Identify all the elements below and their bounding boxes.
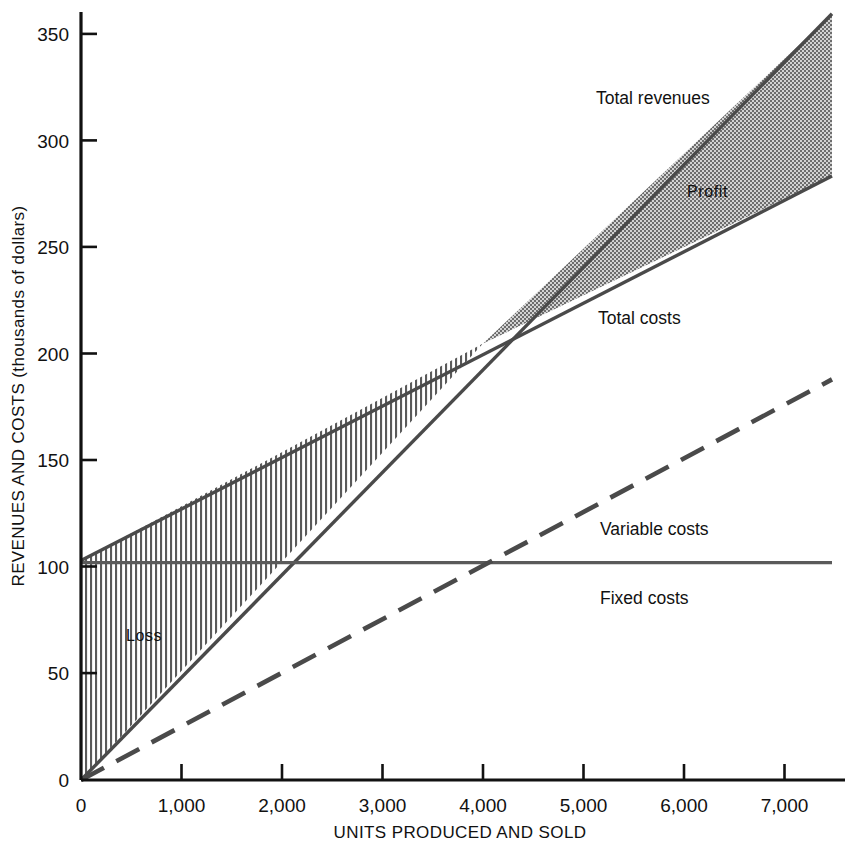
x-tick-label: 4,000	[459, 795, 507, 816]
x-tick-label: 7,000	[761, 795, 809, 816]
x-axis-title: UNITS PRODUCED AND SOLD	[334, 823, 587, 842]
annotation-profit: Profit	[687, 183, 728, 200]
annotation-variable-costs: Variable costs	[600, 519, 709, 539]
x-tick-label: 6,000	[660, 795, 708, 816]
x-tick-label: 5,000	[560, 795, 608, 816]
y-tick-label: 200	[37, 344, 69, 365]
y-tick-label: 0	[58, 770, 69, 791]
y-tick-label: 50	[48, 663, 69, 684]
y-tick-label: 300	[37, 131, 69, 152]
x-tick-label: 0	[76, 795, 87, 816]
y-axis-title: REVENUES AND COSTS (thousands of dollars…	[9, 205, 28, 586]
break-even-chart: 350 300 250 200 150 100 50 0 0 1,000 2,0…	[0, 0, 851, 844]
annotation-total-costs: Total costs	[598, 308, 681, 328]
x-tick-label: 2,000	[258, 795, 306, 816]
y-tick-label: 100	[37, 557, 69, 578]
chart-canvas: 350 300 250 200 150 100 50 0 0 1,000 2,0…	[0, 0, 851, 844]
annotation-fixed-costs: Fixed costs	[600, 588, 689, 608]
x-tick-label: 1,000	[158, 795, 206, 816]
y-tick-label: 350	[37, 24, 69, 45]
y-tick-label: 150	[37, 450, 69, 471]
annotation-total-revenues: Total revenues	[596, 88, 710, 108]
annotation-loss: Loss	[126, 627, 162, 644]
y-tick-label: 250	[37, 237, 69, 258]
x-tick-label: 3,000	[359, 795, 407, 816]
